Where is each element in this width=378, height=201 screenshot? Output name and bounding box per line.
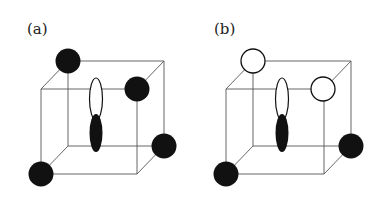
atom-front-top-right — [125, 77, 150, 102]
atom-back-bottom-right — [152, 134, 177, 159]
panel-b: (b) — [214, 20, 364, 187]
orbital-upper-lobe — [276, 78, 289, 120]
atom-front-top-right — [311, 77, 335, 101]
atom-back-top-left — [56, 49, 81, 74]
atom-back-bottom-right — [339, 134, 364, 159]
panel-a: (a) — [27, 20, 177, 187]
orbital-upper-lobe — [90, 78, 103, 120]
orbital-lower-lobe — [90, 114, 103, 152]
panel-a-label: (a) — [27, 20, 48, 38]
figure-canvas: (a) (b) — [0, 0, 378, 201]
cube-wireframe — [226, 61, 351, 174]
atom-front-bottom-left — [29, 162, 54, 187]
atom-front-bottom-left — [214, 162, 239, 187]
orbital-lower-lobe — [276, 114, 289, 152]
atom-back-top-left — [241, 49, 265, 73]
panel-b-label: (b) — [214, 20, 235, 38]
cube-wireframe — [41, 61, 164, 174]
